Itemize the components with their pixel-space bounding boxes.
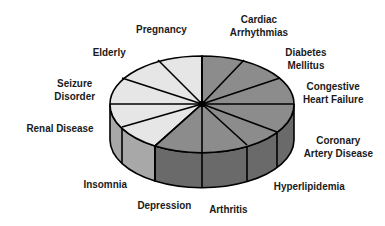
label-congestive-heart-failure: CongestiveHeart Failure [303,80,363,105]
label-cardiac-arrhythmias: CardiacArrhythmias [230,13,288,38]
label-insomnia: Insomnia [84,178,127,191]
label-pregnancy: Pregnancy [136,23,187,36]
label-hyperlipidemia: Hyperlipidemia [274,180,345,193]
label-arthritis: Arthritis [209,203,247,216]
label-depression: Depression [137,199,191,212]
label-coronary-artery-disease: CoronaryArtery Disease [304,134,373,159]
label-diabetes-mellitus: DiabetesMellitus [285,46,326,71]
pie-top [110,56,294,153]
label-elderly: Elderly [93,46,126,59]
label-renal-disease: Renal Disease [26,122,93,135]
label-seizure-disorder: SeizureDisorder [54,77,95,102]
